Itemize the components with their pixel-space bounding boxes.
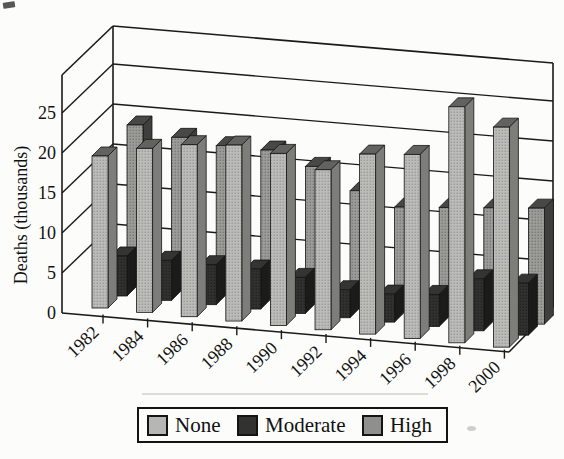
- bar-1984-moderate-side: [172, 251, 181, 300]
- scan-artifact-line: [142, 393, 428, 395]
- bar-1984-none-side: [153, 139, 162, 312]
- chart-figure: 0510152025Deaths (thousands)198219841986…: [0, 0, 564, 459]
- x-tick-label-2000: 2000: [464, 357, 504, 396]
- bar-1986-moderate-side: [216, 256, 225, 305]
- bar-2000-high-side: [544, 199, 553, 324]
- bar-1994-none-side: [376, 145, 385, 334]
- bar-1982-moderate-side: [127, 247, 136, 296]
- bar-1996-none-front: [404, 154, 420, 338]
- bar-2000-none: [493, 118, 518, 347]
- bar-1988-moderate-side: [261, 260, 270, 309]
- legend-swatch-high: [362, 415, 383, 436]
- bar-1998-moderate-side: [484, 270, 493, 331]
- bar-1992-none-front: [315, 170, 331, 330]
- bar-1982-none: [92, 147, 117, 308]
- bar-1994-none-front: [360, 154, 376, 334]
- bar-1982-none-side: [108, 147, 117, 308]
- gridline-leftwall-20: [62, 104, 113, 153]
- bar-1982-none-front: [92, 156, 108, 308]
- bar-1996-none-side: [420, 145, 429, 338]
- legend-swatch-none: [147, 415, 168, 436]
- gridline-backwall-25: [113, 64, 553, 101]
- y-axis-title: Deaths (thousands): [11, 146, 32, 284]
- x-tick-label-1984: 1984: [108, 326, 148, 365]
- bar-1996-none: [404, 145, 429, 338]
- scan-artifact-smudge: [467, 426, 476, 431]
- legend-item-moderate: Moderate: [237, 415, 345, 436]
- x-tick-label-1994: 1994: [331, 345, 371, 384]
- legend-swatch-moderate: [237, 415, 258, 436]
- legend-label-moderate: Moderate: [265, 415, 345, 436]
- bar-1990-none: [270, 144, 295, 325]
- bar-1986-none-side: [197, 136, 206, 317]
- bar-1998-none-side: [465, 98, 474, 343]
- bar-2000-none-side: [509, 118, 518, 347]
- x-tick-label-1982: 1982: [63, 322, 103, 361]
- frame-back-top: [113, 26, 553, 63]
- legend-label-high: High: [390, 415, 432, 436]
- bar-1988-none-side: [242, 136, 251, 321]
- legend: None Moderate High: [137, 407, 448, 443]
- y-tick-label-10: 10: [38, 223, 56, 243]
- y-tick-label-0: 0: [47, 303, 56, 323]
- x-tick-label-1986: 1986: [152, 330, 192, 369]
- bar-1986-none-front: [181, 145, 197, 317]
- x-tick-label-1996: 1996: [375, 349, 415, 388]
- bar-1986-none: [181, 136, 206, 317]
- bar-1988-none: [226, 136, 251, 321]
- y-tick-label-25: 25: [38, 103, 56, 123]
- bar-1990-none-side: [286, 144, 295, 325]
- legend-item-none: None: [147, 415, 221, 436]
- bar-1988-none-front: [226, 145, 242, 321]
- bar-1992-none: [315, 161, 340, 330]
- y-tick-label-20: 20: [38, 143, 56, 163]
- bar-2000-moderate-side: [528, 274, 537, 335]
- bar-1984-none-front: [137, 148, 153, 312]
- gridline-leftwall-25: [62, 64, 113, 113]
- bar-1990-none-front: [270, 153, 286, 325]
- bar-1998-none-front: [449, 107, 465, 343]
- bar-1998-none: [449, 98, 474, 343]
- y-tick-label-5: 5: [47, 263, 56, 283]
- x-tick-label-1998: 1998: [420, 353, 460, 392]
- bar-1984-none: [137, 139, 162, 312]
- bar-chart-3d: 0510152025Deaths (thousands)198219841986…: [0, 0, 564, 459]
- x-tick-label-1988: 1988: [197, 334, 237, 373]
- bar-1994-none: [360, 145, 385, 334]
- y-tick-label-15: 15: [38, 183, 56, 203]
- frame-top-depth: [62, 26, 113, 75]
- legend-label-none: None: [175, 415, 221, 436]
- bar-1992-none-side: [331, 161, 340, 330]
- x-tick-label-1992: 1992: [286, 342, 326, 381]
- bar-2000-none-front: [493, 127, 509, 347]
- legend-item-high: High: [362, 415, 432, 436]
- x-tick-label-1990: 1990: [241, 338, 281, 377]
